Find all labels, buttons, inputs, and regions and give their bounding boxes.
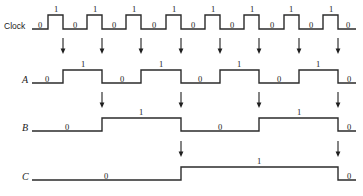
b-to-c-arrows-1	[336, 141, 341, 157]
row-label-group: ClockABC	[4, 21, 29, 182]
a-to-b-arrows-3	[336, 92, 341, 108]
bit-label-a-8: 0	[347, 74, 351, 84]
waveform-group	[32, 15, 356, 180]
bit-label-a-5: 1	[237, 59, 241, 69]
timing-diagram-figure: ClockABC 0101010101010101001010101001010…	[0, 0, 363, 196]
bit-label-clock-6: 0	[152, 20, 156, 30]
bit-label-c-0: 0	[104, 171, 108, 181]
bit-label-a-7: 1	[316, 59, 320, 69]
bit-label-b-1: 1	[139, 107, 143, 117]
bit-label-c-1: 1	[257, 156, 261, 166]
bit-label-clock-10: 0	[230, 20, 234, 30]
clock-to-a-arrows-6	[297, 38, 302, 54]
bit-label-clock-16: 0	[346, 20, 350, 30]
row-label-clock: Clock	[4, 21, 26, 31]
bit-label-clock-1: 1	[54, 4, 58, 14]
bit-label-b-2: 0	[218, 122, 222, 132]
bit-label-a-2: 0	[120, 74, 124, 84]
bit-label-clock-12: 0	[270, 20, 274, 30]
clock-to-a-arrows-5	[257, 38, 262, 54]
bit-label-c-2: 0	[347, 171, 351, 181]
bit-label-clock-15: 1	[329, 4, 333, 14]
bit-label-group: 0101010101010101001010101001010010	[38, 4, 351, 181]
bit-label-a-3: 1	[159, 59, 163, 69]
clock-to-a-arrows-0	[61, 38, 66, 54]
clock-to-a-arrows-2	[139, 38, 144, 54]
bit-label-b-4: 0	[347, 122, 351, 132]
clock-to-a-arrows-1	[100, 38, 105, 54]
clock-to-a-arrows-3	[179, 38, 184, 54]
bit-label-clock-11: 1	[250, 4, 254, 14]
clock-to-a-arrows-4	[218, 38, 223, 54]
bit-label-clock-4: 0	[112, 20, 116, 30]
waveform-c	[32, 167, 356, 180]
a-to-b-arrows-0	[100, 92, 105, 108]
bit-label-clock-9: 1	[211, 4, 215, 14]
bit-label-clock-14: 0	[309, 20, 313, 30]
bit-label-a-0: 0	[45, 74, 49, 84]
waveform-a	[32, 70, 356, 83]
b-to-c-arrows-0	[179, 141, 184, 157]
bit-label-clock-5: 1	[132, 4, 136, 14]
timing-diagram-canvas: ClockABC 0101010101010101001010101001010…	[0, 0, 363, 196]
row-label-a: A	[21, 74, 29, 85]
row-label-b: B	[22, 122, 28, 133]
bit-label-clock-8: 0	[191, 20, 195, 30]
bit-label-clock-7: 1	[172, 4, 176, 14]
bit-label-clock-3: 1	[93, 4, 97, 14]
clock-to-a-arrows-7	[336, 38, 341, 54]
bit-label-b-0: 0	[65, 122, 69, 132]
bit-label-clock-0: 0	[38, 20, 42, 30]
bit-label-clock-13: 1	[289, 4, 293, 14]
bit-label-a-6: 0	[277, 74, 281, 84]
arrow-group	[61, 38, 341, 157]
a-to-b-arrows-1	[179, 92, 184, 108]
bit-label-b-3: 1	[297, 107, 301, 117]
row-label-c: C	[22, 171, 29, 182]
waveform-b	[32, 118, 356, 131]
bit-label-clock-2: 0	[73, 20, 77, 30]
a-to-b-arrows-2	[257, 92, 262, 108]
bit-label-a-1: 1	[81, 59, 85, 69]
bit-label-a-4: 0	[198, 74, 202, 84]
